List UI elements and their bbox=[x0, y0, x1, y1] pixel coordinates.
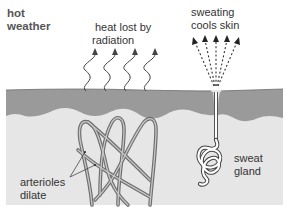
skin-diagram: hot weather heat lost by radiation sweat… bbox=[0, 0, 286, 211]
arrowhead-icon bbox=[213, 35, 219, 42]
arterioles-label-line-1: arterioles bbox=[20, 176, 65, 188]
radiation-label-line-2: radiation bbox=[92, 34, 134, 46]
arrowhead-icon bbox=[234, 37, 240, 45]
arrowhead-icon bbox=[132, 48, 138, 55]
arrowhead-icon bbox=[92, 48, 98, 55]
sweat-arrows bbox=[195, 40, 237, 86]
wavy-arrow-icon bbox=[144, 54, 155, 91]
sweat-gland-label-line-2: gland bbox=[234, 165, 261, 177]
sweating-label-line-1: sweating bbox=[191, 6, 234, 18]
arrowhead-icon bbox=[202, 35, 208, 42]
wavy-arrow-icon bbox=[124, 54, 135, 91]
arterioles-label-line-2: dilate bbox=[20, 189, 46, 201]
radiation-arrows bbox=[84, 54, 155, 91]
wavy-arrow-icon bbox=[104, 54, 115, 91]
sweat-gland-label-line-1: sweat bbox=[234, 152, 263, 164]
radiation-label-line-1: heat lost by bbox=[95, 21, 151, 33]
arrowhead-icon bbox=[152, 48, 158, 55]
title-line-2: weather bbox=[7, 20, 50, 32]
title-line-1: hot bbox=[7, 7, 25, 19]
arrowhead-icon bbox=[112, 48, 118, 55]
sweating-label-line-2: cools skin bbox=[191, 19, 239, 31]
arrowhead-icon bbox=[224, 35, 230, 42]
wavy-arrow-icon bbox=[84, 54, 95, 91]
arrowhead-icon bbox=[192, 37, 198, 45]
